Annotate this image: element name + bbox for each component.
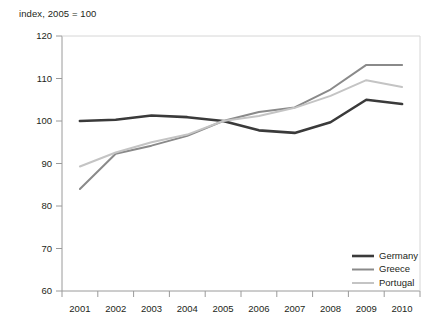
y-tick-label: 60 (41, 285, 52, 296)
y-tick-label: 80 (41, 200, 52, 211)
series-line-portugal (80, 80, 402, 166)
x-tick-label: 2009 (356, 303, 377, 314)
x-tick-label: 2003 (141, 303, 162, 314)
chart-container: index, 2005 = 100 12011010090807060 2001… (0, 0, 439, 324)
y-axis-ticks: 12011010090807060 (36, 30, 62, 296)
chart-legend: GermanyGreecePortugal (352, 250, 418, 288)
y-tick-label: 90 (41, 158, 52, 169)
x-axis-ticks: 2001200220032004200520062007200820092010 (62, 291, 420, 314)
y-tick-label: 120 (36, 30, 52, 41)
x-tick-label: 2008 (320, 303, 341, 314)
data-series-layer (80, 65, 402, 189)
line-chart: 12011010090807060 2001200220032004200520… (0, 0, 439, 324)
x-tick-label: 2005 (213, 303, 234, 314)
plot-frame (62, 36, 420, 291)
x-tick-label: 2007 (284, 303, 305, 314)
x-tick-label: 2010 (392, 303, 413, 314)
x-tick-label: 2001 (69, 303, 90, 314)
x-tick-label: 2002 (105, 303, 126, 314)
legend-label-germany: Germany (379, 250, 418, 261)
x-tick-label: 2004 (177, 303, 198, 314)
y-tick-label: 70 (41, 243, 52, 254)
y-tick-label: 100 (36, 115, 52, 126)
legend-label-greece: Greece (379, 263, 410, 274)
legend-label-portugal: Portugal (379, 277, 414, 288)
y-tick-label: 110 (37, 73, 52, 84)
x-tick-label: 2006 (248, 303, 269, 314)
